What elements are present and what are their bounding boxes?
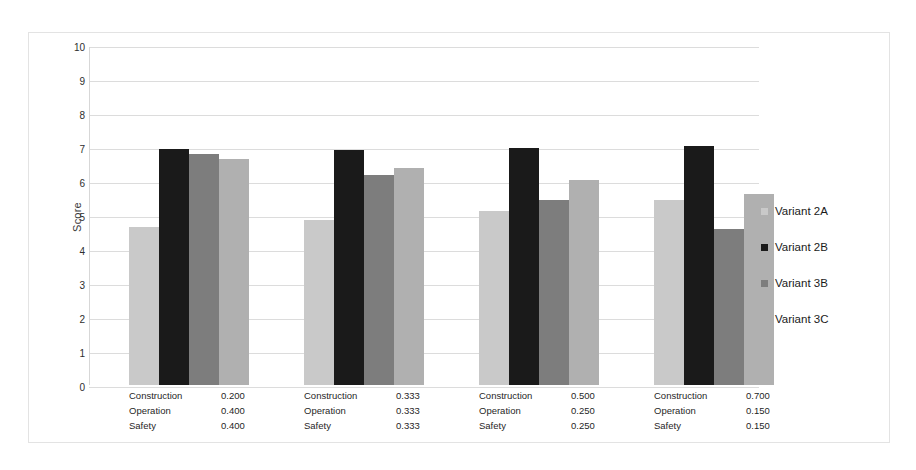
criterion-weight: 0.700 xyxy=(746,388,794,403)
bar xyxy=(394,168,424,385)
category-label-block: Construction0.200Operation0.400Safety0.4… xyxy=(129,388,304,433)
legend-item[interactable]: Variant 3B xyxy=(761,265,879,301)
criterion-name: Safety xyxy=(479,418,571,433)
category-label-row: Construction0.500 xyxy=(479,388,654,403)
y-axis-tick-label: 4 xyxy=(59,246,85,257)
y-axis-tick-label: 9 xyxy=(59,76,85,87)
bar xyxy=(684,146,714,385)
criterion-weight: 0.333 xyxy=(396,388,444,403)
criterion-name: Safety xyxy=(129,418,221,433)
criterion-weight: 0.400 xyxy=(221,418,269,433)
legend-swatch-icon xyxy=(761,208,768,215)
category-label-row: Safety0.400 xyxy=(129,418,304,433)
y-axis-tick-label: 3 xyxy=(59,280,85,291)
legend-label: Variant 3B xyxy=(775,277,828,289)
category-label-row: Operation0.333 xyxy=(304,403,479,418)
plot-area xyxy=(89,47,759,385)
x-axis-category-labels: Construction0.200Operation0.400Safety0.4… xyxy=(89,386,759,438)
bar xyxy=(129,227,159,385)
chart-legend: Variant 2AVariant 2BVariant 3BVariant 3C xyxy=(761,193,879,337)
y-axis-tick-label: 6 xyxy=(59,178,85,189)
bar xyxy=(509,148,539,385)
bar xyxy=(219,159,249,385)
bar xyxy=(304,220,334,385)
category-label-row: Safety0.250 xyxy=(479,418,654,433)
criterion-name: Operation xyxy=(304,403,396,418)
legend-swatch-icon xyxy=(761,280,768,287)
bar xyxy=(714,229,744,385)
y-axis-tick-label: 5 xyxy=(59,212,85,223)
criterion-name: Construction xyxy=(479,388,571,403)
criterion-weight: 0.150 xyxy=(746,403,794,418)
legend-item[interactable]: Variant 2A xyxy=(761,193,879,229)
y-axis-tick-label: 8 xyxy=(59,110,85,121)
bar-group xyxy=(304,47,424,385)
legend-item[interactable]: Variant 3C xyxy=(761,301,879,337)
criterion-weight: 0.333 xyxy=(396,403,444,418)
bar-chart-figure: Score 109876543210 Construction0.200Oper… xyxy=(28,32,890,443)
bar-group xyxy=(479,47,599,385)
legend-swatch-icon xyxy=(761,316,768,323)
bar xyxy=(159,149,189,385)
bar xyxy=(654,200,684,385)
y-axis-tick-label: 10 xyxy=(59,42,85,53)
category-label-block: Construction0.333Operation0.333Safety0.3… xyxy=(304,388,479,433)
criterion-name: Safety xyxy=(304,418,396,433)
y-axis-tick-label: 2 xyxy=(59,314,85,325)
criterion-name: Construction xyxy=(129,388,221,403)
legend-label: Variant 2A xyxy=(775,205,828,217)
criterion-weight: 0.400 xyxy=(221,403,269,418)
criterion-weight: 0.250 xyxy=(571,403,619,418)
y-axis-tick-label: 7 xyxy=(59,144,85,155)
bar-group xyxy=(129,47,249,385)
category-label-row: Construction0.333 xyxy=(304,388,479,403)
criterion-name: Operation xyxy=(129,403,221,418)
criterion-name: Operation xyxy=(479,403,571,418)
y-axis-tick-label: 0 xyxy=(59,382,85,393)
y-axis-tick-label: 1 xyxy=(59,348,85,359)
category-label-block: Construction0.500Operation0.250Safety0.2… xyxy=(479,388,654,433)
category-label-row: Construction0.200 xyxy=(129,388,304,403)
legend-label: Variant 2B xyxy=(775,241,828,253)
criterion-weight: 0.250 xyxy=(571,418,619,433)
criterion-name: Construction xyxy=(654,388,746,403)
bar xyxy=(334,150,364,385)
criterion-name: Safety xyxy=(654,418,746,433)
criterion-weight: 0.150 xyxy=(746,418,794,433)
category-label-row: Safety0.150 xyxy=(654,418,829,433)
category-label-row: Operation0.400 xyxy=(129,403,304,418)
legend-swatch-icon xyxy=(761,244,768,251)
bar xyxy=(539,200,569,385)
category-label-row: Construction0.700 xyxy=(654,388,829,403)
bar xyxy=(569,180,599,385)
bar xyxy=(364,175,394,385)
bar-group xyxy=(654,47,774,385)
criterion-weight: 0.500 xyxy=(571,388,619,403)
criterion-name: Operation xyxy=(654,403,746,418)
category-label-row: Operation0.250 xyxy=(479,403,654,418)
criterion-weight: 0.200 xyxy=(221,388,269,403)
legend-label: Variant 3C xyxy=(775,313,828,325)
criterion-weight: 0.333 xyxy=(396,418,444,433)
criterion-name: Construction xyxy=(304,388,396,403)
bar xyxy=(189,154,219,385)
legend-item[interactable]: Variant 2B xyxy=(761,229,879,265)
bar xyxy=(479,211,509,385)
category-label-row: Operation0.150 xyxy=(654,403,829,418)
category-label-block: Construction0.700Operation0.150Safety0.1… xyxy=(654,388,829,433)
category-label-row: Safety0.333 xyxy=(304,418,479,433)
